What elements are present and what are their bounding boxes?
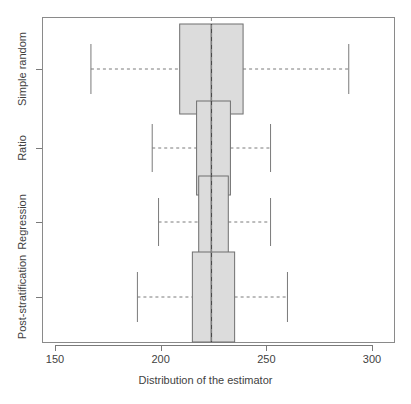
y-axis-label-text: Regression xyxy=(17,194,28,250)
x-axis-tick-label: 300 xyxy=(363,353,381,365)
x-axis-tick xyxy=(372,345,373,351)
x-axis-tick-label: 150 xyxy=(46,353,64,365)
y-axis-label-text: Simple random xyxy=(17,32,28,106)
box-iqr xyxy=(192,252,234,342)
plot-drawing-area xyxy=(42,17,395,343)
boxplot-group xyxy=(137,252,287,342)
y-axis-tick xyxy=(36,297,42,298)
y-axis-label-text: Ratio xyxy=(17,135,28,161)
x-axis-tick xyxy=(55,345,56,351)
y-axis-tick xyxy=(36,69,42,70)
x-axis-title: Distribution of the estimator xyxy=(0,374,411,386)
y-axis-tick xyxy=(36,222,42,223)
y-axis-label-text: Post-stratification xyxy=(17,255,28,339)
x-axis-tick xyxy=(266,345,267,351)
boxplot-figure: Simple randomRatioRegressionPost-stratif… xyxy=(0,0,411,404)
y-axis-tick xyxy=(36,148,42,149)
x-axis-tick-label: 250 xyxy=(257,353,275,365)
x-axis-tick-label: 200 xyxy=(151,353,169,365)
x-axis-tick xyxy=(161,345,162,351)
x-axis-line xyxy=(55,345,372,346)
